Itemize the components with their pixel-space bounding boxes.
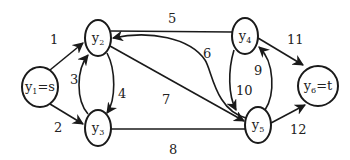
edge-label-7: 7 bbox=[162, 92, 170, 107]
edge-7 bbox=[110, 46, 244, 121]
edge-label-1: 1 bbox=[50, 32, 58, 47]
flow-network-diagram: 1 2 3 4 5 6 7 8 9 10 11 12 y1=s y2 y3 y4… bbox=[0, 0, 350, 160]
edge-10 bbox=[230, 50, 236, 110]
edge-5 bbox=[111, 31, 232, 32]
edge-4 bbox=[107, 53, 114, 113]
edge-label-3: 3 bbox=[70, 72, 78, 87]
edge-label-12: 12 bbox=[290, 122, 307, 137]
svg-text:y1=s: y1=s bbox=[24, 79, 55, 96]
edge-label-10: 10 bbox=[236, 83, 253, 98]
node-y6: y6=t bbox=[298, 66, 338, 106]
node-y1: y1=s bbox=[22, 67, 58, 107]
edge-label-6: 6 bbox=[203, 46, 211, 61]
node-y3: y3 bbox=[85, 110, 111, 146]
node-y5: y5 bbox=[245, 107, 271, 143]
edge-3 bbox=[79, 55, 88, 114]
edge-6 bbox=[113, 35, 246, 118]
edge-label-5: 5 bbox=[168, 11, 176, 26]
edge-label-4: 4 bbox=[118, 86, 126, 101]
node-y2: y2 bbox=[85, 20, 111, 56]
node-y4: y4 bbox=[232, 18, 258, 54]
edge-label-8: 8 bbox=[169, 142, 177, 157]
svg-text:y6=t: y6=t bbox=[303, 78, 333, 95]
edge-label-11: 11 bbox=[287, 32, 304, 47]
edge-label-2: 2 bbox=[54, 120, 62, 135]
edge-1 bbox=[50, 43, 83, 70]
edge-12 bbox=[271, 105, 305, 123]
edge-9 bbox=[259, 47, 272, 110]
edge-label-9: 9 bbox=[254, 63, 262, 78]
